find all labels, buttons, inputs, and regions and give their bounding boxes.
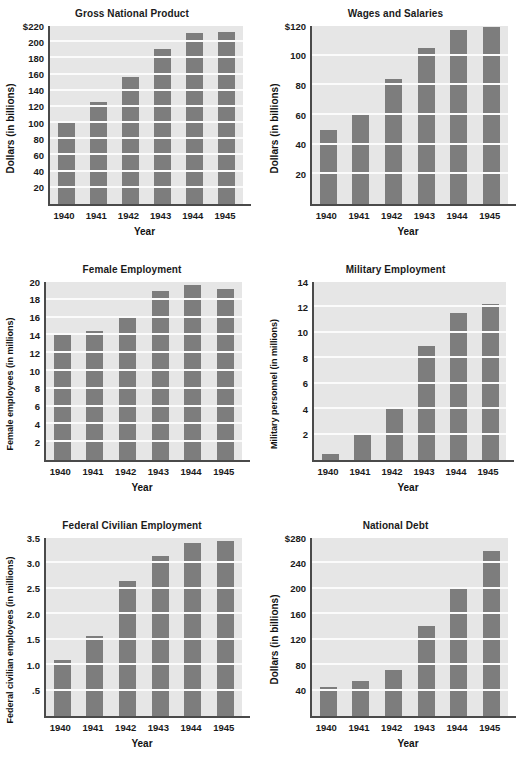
x-tick-label: 1942 [375, 722, 408, 733]
y-tick-label: 2.0 [27, 610, 40, 620]
axis-extension [241, 204, 251, 206]
gridline [312, 612, 508, 614]
x-axis-ticks: 194019411942194319441945 [44, 722, 240, 733]
bar [320, 687, 337, 716]
gridline [46, 387, 242, 389]
gridline [314, 433, 506, 435]
x-axis-label: Year [48, 226, 241, 237]
plot-area [48, 26, 243, 206]
y-tick-label: 80 [295, 81, 306, 91]
gridline [50, 121, 243, 123]
gridline [50, 73, 243, 75]
y-axis-ticks: .51.01.52.02.53.03.5 [0, 538, 40, 716]
plot-area [44, 538, 242, 718]
gridline [46, 587, 242, 589]
y-tick-label: 140 [28, 86, 44, 96]
y-tick-label: 80 [33, 135, 44, 145]
x-axis-label: Year [312, 482, 504, 493]
y-tick-label: 8 [35, 384, 40, 394]
gridline [312, 143, 508, 145]
gridline [312, 172, 508, 174]
y-tick-label: 12 [297, 303, 308, 313]
x-tick-label: 1945 [207, 466, 240, 477]
y-tick-label: 8 [303, 354, 308, 364]
x-tick-label: 1945 [472, 466, 504, 477]
chart-panel-military-employment: Military Employment Military personnel (… [264, 256, 527, 512]
x-axis-ticks: 194019411942194319441945 [48, 210, 241, 221]
chart-title: Gross National Product [0, 8, 264, 19]
gridline [312, 54, 508, 56]
chart-panel-federal-civilian-employment: Federal Civilian Employment Federal civi… [0, 512, 264, 767]
y-tick-label: 10 [29, 366, 40, 376]
chart-panel-wages-and-salaries: Wages and Salaries Dollars (in billions)… [264, 0, 527, 256]
x-tick-label: 1941 [80, 210, 112, 221]
x-tick-label: 1941 [343, 210, 376, 221]
x-tick-label: 1942 [109, 722, 142, 733]
x-tick-label: 1944 [175, 722, 208, 733]
y-axis-ticks: 20406080100$120 [264, 26, 306, 204]
y-tick-label: 200 [28, 37, 44, 47]
y-tick-label: .5 [32, 686, 40, 696]
gridline [50, 56, 243, 58]
x-tick-label: 1944 [441, 722, 474, 733]
y-tick-label: 100 [28, 118, 44, 128]
chart-panel-female-employment: Female Employment Female employees (in m… [0, 256, 264, 512]
x-axis-label: Year [310, 738, 506, 749]
x-tick-label: 1942 [109, 466, 142, 477]
x-tick-label: 1940 [310, 210, 343, 221]
gridline [46, 663, 242, 665]
x-axis-label: Year [44, 738, 240, 749]
gridline [312, 663, 508, 665]
y-tick-label: 100 [290, 51, 306, 61]
y-tick-label: $120 [285, 21, 306, 31]
chart-title: Federal Civilian Employment [0, 520, 264, 531]
y-tick-label: $220 [23, 21, 44, 31]
axis-extension [506, 204, 516, 206]
x-tick-label: 1944 [175, 466, 208, 477]
x-tick-label: 1941 [77, 466, 110, 477]
y-axis-ticks: 2468101214 [264, 282, 308, 460]
x-tick-label: 1945 [207, 722, 240, 733]
bar [354, 435, 371, 460]
x-axis-ticks: 194019411942194319441945 [312, 466, 504, 477]
x-tick-label: 1943 [142, 466, 175, 477]
gridline [50, 137, 243, 139]
bar [385, 670, 402, 716]
bar [184, 285, 201, 460]
x-tick-label: 1940 [312, 466, 344, 477]
y-tick-label: 60 [33, 151, 44, 161]
gridline [46, 440, 242, 442]
x-tick-label: 1943 [408, 210, 441, 221]
y-tick-label: 180 [28, 54, 44, 64]
gridline [46, 561, 242, 563]
gridline [50, 153, 243, 155]
x-tick-label: 1944 [440, 466, 472, 477]
x-tick-label: 1945 [473, 210, 506, 221]
x-tick-label: 1944 [177, 210, 209, 221]
bar [483, 551, 500, 716]
y-tick-label: 14 [29, 331, 40, 341]
y-axis-ticks: 2468101214161820 [0, 282, 40, 460]
chart-panel-national-debt: National Debt Dollars (in billions) 4080… [264, 512, 527, 767]
gridline [50, 105, 243, 107]
x-tick-label: 1940 [310, 722, 343, 733]
y-tick-label: 2 [35, 437, 40, 447]
gridline [50, 170, 243, 172]
y-tick-label: 160 [290, 610, 306, 620]
y-tick-label: 14 [297, 277, 308, 287]
bar [450, 588, 467, 716]
plot-area [310, 26, 508, 206]
x-tick-label: 1940 [44, 466, 77, 477]
gridline [312, 83, 508, 85]
plot-area [312, 282, 506, 462]
x-tick-label: 1943 [145, 210, 177, 221]
axis-extension [506, 716, 516, 718]
y-tick-label: 20 [29, 277, 40, 287]
y-tick-label: 20 [33, 183, 44, 193]
bar [418, 346, 435, 460]
chart-grid: Gross National Product Dollars (in billi… [0, 0, 527, 767]
gridline [312, 113, 508, 115]
gridline [314, 407, 506, 409]
bar [450, 313, 467, 460]
axis-extension [504, 460, 514, 462]
